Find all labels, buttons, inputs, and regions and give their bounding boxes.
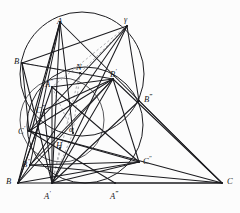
point-label-prime-Cpp: ″ [149,154,151,161]
point-label-Bbeta: B [14,57,19,66]
segment-Bbeta-gamma [22,26,127,63]
point-label-prime-Bp: ′ [115,67,116,74]
vertex-dot-B [17,182,19,184]
point-label-Bppp: B‴ [144,93,152,103]
point-label-prime-Bppp: ‴ [149,92,151,99]
point-label-prime-App: ″ [50,77,52,84]
vertex-dot-Cp [28,130,30,132]
point-label-base-C: C [227,176,233,186]
segment-Bpp-C [30,165,222,183]
point-label-Bpp: B″ [22,158,30,168]
point-label-prime-Cppp: ‴ [42,103,44,110]
point-label-Bp: B′ [110,68,116,78]
point-label-prime-Cp: ′ [24,124,25,131]
vertex-dot-gamma [126,25,128,27]
point-label-Cppp: C‴ [36,104,44,114]
segment-Bppp-C [139,101,222,183]
point-label-Cp: C′ [18,125,25,135]
vertex-dot-Appp [114,182,116,184]
segment-Cpp-Ap [52,162,139,183]
point-label-Ap: A′ [44,190,50,200]
segment-Bbeta-Cp [22,63,29,131]
vertex-dot-Cpp [138,161,140,163]
vertex-dot-Bppp [138,100,140,102]
solid-segment-group [18,22,222,183]
point-label-base-N: N [76,62,82,72]
point-label-A: A [57,17,62,26]
point-label-C: C [227,177,233,186]
point-label-Cpp: C″ [143,155,151,165]
segment-Cppp-B [18,110,44,183]
point-label-base-Bbeta: B [14,56,19,66]
vertex-dot-Ap [51,182,53,184]
point-label-Appp: A‴ [110,190,118,200]
point-label-alpha: α [69,126,73,134]
vertex-dot-Bbeta [21,62,23,64]
point-label-App: A″ [45,78,53,88]
vertex-dot-N [79,72,81,74]
point-label-N: N [76,63,82,72]
point-label-prime-Ap: ′ [49,189,50,196]
point-label-prime-Bpp: ″ [27,157,29,164]
point-label-prime-Appp: ‴ [115,189,117,196]
point-label-gamma: γ [124,16,127,24]
point-label-base-A: A [57,16,62,26]
geometry-figure: AγBNB′A″B‴C‴C′αHC″B″BA′A‴C [0,0,240,213]
point-label-base-H: H [56,140,62,150]
segment-Bp-B [18,79,113,183]
point-label-base-alpha: α [69,125,73,134]
point-label-H: H [56,141,62,150]
vertex-dot-C [221,182,223,184]
point-label-B: B [6,177,11,186]
segment-A-alpha [60,22,73,133]
point-label-base-B: B [6,176,11,186]
point-label-base-gamma: γ [124,15,127,24]
